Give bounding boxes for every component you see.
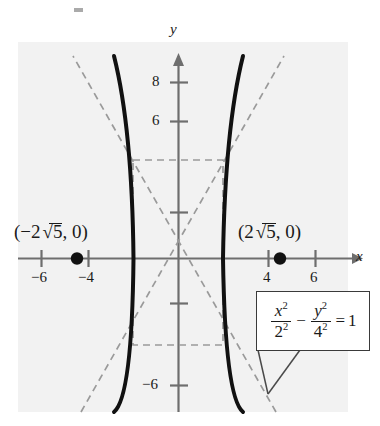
plot-canvas [0, 0, 380, 426]
y-axis-label: y [170, 22, 177, 37]
right-focus-dot [274, 252, 286, 264]
right-denominator-exponent: 2 [322, 321, 327, 332]
left-fraction: x2 22 [271, 302, 291, 341]
left-denominator-base: 2 [274, 322, 283, 341]
equals-sign: = [336, 311, 346, 331]
equation: x2 22 − y2 42 = 1 [269, 302, 356, 341]
right-numerator-exponent: 2 [322, 300, 327, 311]
radical-bar [262, 223, 276, 224]
left-focus-coefficient: 2 [31, 221, 41, 242]
right-focus-radical: √5 [254, 222, 276, 241]
equation-rhs: 1 [348, 311, 357, 331]
equation-callout-box: x2 22 − y2 42 = 1 [256, 291, 370, 351]
hyperbola-figure: x y −6 −4 4 6 8 6 −6 (−2√5, 0) (2√5, 0) … [0, 0, 380, 426]
right-denominator: 42 [311, 321, 331, 341]
y-tick-label-6: 6 [152, 113, 160, 128]
right-numerator-var: y [314, 301, 322, 320]
right-fraction: y2 42 [311, 302, 331, 341]
left-focus-radical: √5 [41, 222, 63, 241]
left-denominator-exponent: 2 [283, 321, 288, 332]
right-numerator: y2 [311, 302, 330, 321]
x-tick-label-neg6: −6 [31, 270, 47, 285]
right-focus-label: (2√5, 0) [238, 222, 301, 241]
x-tick-label-6: 6 [310, 270, 318, 285]
left-denominator: 22 [271, 321, 291, 341]
left-focus-dot [71, 252, 83, 264]
x-tick-label-4: 4 [263, 270, 271, 285]
y-tick-label-8: 8 [152, 74, 160, 89]
callout-leader [258, 350, 300, 394]
radical-bar [49, 223, 63, 224]
x-axis-label: x [356, 249, 363, 264]
right-denominator-base: 4 [314, 322, 323, 341]
left-focus-label: (−2√5, 0) [14, 222, 88, 241]
left-branch [114, 56, 134, 412]
left-numerator: x2 [272, 302, 291, 321]
left-numerator-exponent: 2 [282, 300, 287, 311]
x-tick-label-neg4: −4 [78, 270, 94, 285]
left-focus-sign: − [20, 221, 31, 242]
left-focus-rest: , 0) [62, 221, 87, 242]
right-focus-rest: , 0) [276, 221, 301, 242]
minus-operator: − [296, 311, 306, 331]
right-focus-coefficient: 2 [244, 221, 254, 242]
y-tick-label-neg6: −6 [142, 377, 158, 392]
